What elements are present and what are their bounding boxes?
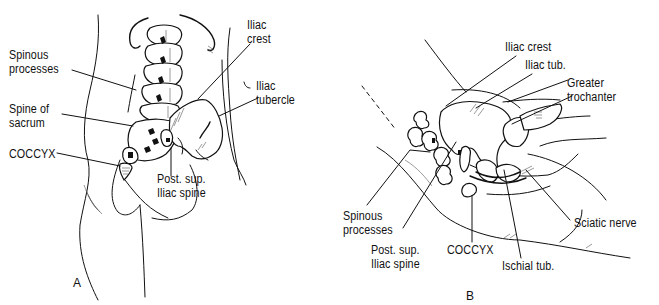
panel-a-drawing <box>57 15 258 300</box>
anatomy-figure: Spinous processes Spine of sacrum COCCYX… <box>0 0 659 305</box>
label-iliac-crest-a: Iliac crest <box>247 18 271 46</box>
label-spinous-processes-b: Spinous processes <box>343 209 393 237</box>
label-coccyx-b: COCCYX <box>447 243 494 257</box>
label-sciatic-nerve-b: Sciatic nerve <box>574 216 637 230</box>
line-drawing <box>0 0 659 305</box>
label-post-sup-iliac-spine-a: Post. sup. Iliac spine <box>157 172 206 200</box>
label-iliac-tub-b: Iliac tub. <box>525 58 566 72</box>
label-greater-trochanter-b: Greater trochanter <box>567 76 616 104</box>
label-ischial-tub-b: Ischial tub. <box>502 259 554 273</box>
label-post-sup-iliac-spine-b: Post. sup. Iliac spine <box>371 243 420 271</box>
ilium-lateral <box>439 101 511 168</box>
panel-letter-a: A <box>73 276 81 290</box>
coccyx-bone <box>119 163 132 180</box>
lumbar-vertebrae <box>140 25 182 121</box>
label-iliac-tubercle-a: Iliac tubercle <box>256 79 295 107</box>
label-spine-of-sacrum-a: Spine of sacrum <box>9 102 49 130</box>
label-iliac-crest-b: Iliac crest <box>505 40 551 54</box>
panel-letter-b: B <box>466 289 474 303</box>
label-coccyx-a: COCCYX <box>9 147 56 161</box>
label-spinous-processes-a: Spinous processes <box>9 48 59 76</box>
